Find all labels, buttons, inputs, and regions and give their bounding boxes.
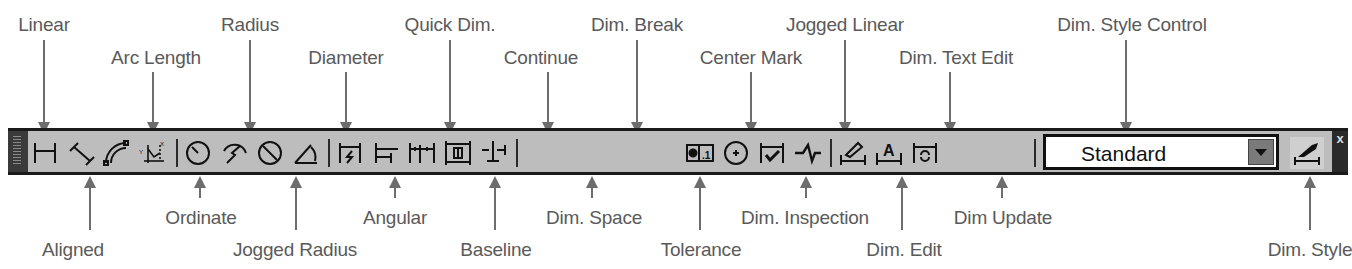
callout-label: Dim Update [954, 207, 1052, 229]
jogged-linear-button[interactable] [791, 137, 825, 169]
callout-arrow [591, 178, 593, 198]
dim-edit-button[interactable] [836, 137, 870, 169]
ordinate-button[interactable]: YX [136, 137, 170, 169]
callout-arrow [199, 178, 201, 198]
callout-arrow [949, 72, 951, 132]
dim-text-edit-icon: A [874, 139, 904, 167]
toolbar-separator [1034, 139, 1036, 167]
callout-label: Baseline [460, 239, 531, 261]
callout-label: Ordinate [165, 207, 236, 229]
callout-arrow [89, 178, 91, 230]
callout-arrow [1125, 40, 1127, 132]
callout-arrow [901, 178, 903, 230]
radius-button[interactable] [181, 137, 215, 169]
diameter-icon [255, 139, 285, 167]
toolbar-end-cap: x [1332, 131, 1348, 172]
jogged-radius-icon [219, 139, 249, 167]
toolbar-separator [328, 139, 330, 167]
dim-update-button[interactable] [908, 137, 942, 169]
callout-label: Quick Dim. [405, 14, 496, 36]
dim-update-icon [910, 139, 940, 167]
toolbar-grip-handle[interactable] [8, 131, 28, 172]
callout-arrow [449, 40, 451, 132]
dim-inspection-button[interactable] [755, 137, 789, 169]
callout-label: Dim. Space [546, 207, 642, 229]
callout-label: Radius [221, 14, 279, 36]
callout-arrow [345, 72, 347, 132]
radius-icon [183, 139, 213, 167]
svg-text:A: A [883, 142, 895, 159]
diameter-button[interactable] [253, 137, 287, 169]
aligned-dimension-icon [66, 139, 96, 167]
baseline-icon [371, 139, 401, 167]
callout-arrow [249, 40, 251, 132]
center-mark-button[interactable] [719, 137, 753, 169]
callout-label: Dim. Text Edit [899, 47, 1013, 69]
callout-label: Dim. Style Control [1057, 14, 1207, 36]
dim-style-control-value: Standard [1081, 142, 1166, 166]
callout-arrow [295, 178, 297, 230]
callout-label: Diameter [308, 47, 383, 69]
dim-break-button[interactable] [477, 137, 511, 169]
callout-arrow [805, 178, 807, 198]
quick-dimension-icon [335, 139, 365, 167]
callout-label: Aligned [42, 239, 104, 261]
jogged-linear-icon [793, 139, 823, 167]
arc-length-button[interactable] [100, 137, 134, 169]
linear-button[interactable] [28, 137, 62, 169]
arc-length-icon [102, 139, 132, 167]
dim-edit-icon [838, 139, 868, 167]
callout-label: Linear [18, 14, 70, 36]
dim-space-icon [443, 139, 473, 167]
jogged-radius-button[interactable] [217, 137, 251, 169]
quick-dim-button[interactable] [333, 137, 367, 169]
ordinate-icon: YX [138, 139, 168, 167]
dim-inspection-icon [757, 139, 787, 167]
continue-icon [407, 139, 437, 167]
dim-style-control-dropdown[interactable]: Standard [1043, 134, 1279, 170]
callout-arrow [750, 72, 752, 132]
callout-arrow [699, 178, 701, 230]
tolerance-icon: .1 [685, 139, 715, 167]
dimension-toolbar: YX .1 A [8, 128, 1348, 175]
callout-label: Jogged Linear [786, 14, 904, 36]
toolbar-separator [176, 139, 178, 167]
callout-arrow [636, 40, 638, 132]
callout-label: Arc Length [111, 47, 201, 69]
callout-label: Angular [363, 207, 427, 229]
tolerance-button[interactable]: .1 [683, 137, 717, 169]
center-mark-icon [721, 139, 751, 167]
baseline-button[interactable] [369, 137, 403, 169]
callout-label: Dim. Inspection [741, 207, 869, 229]
callout-arrow [1001, 178, 1003, 198]
dim-text-edit-button[interactable]: A [872, 137, 906, 169]
callout-arrow [494, 178, 496, 230]
dim-style-icon [1292, 139, 1322, 167]
close-icon[interactable]: x [1334, 133, 1346, 145]
callout-label: Dim. Style [1268, 239, 1352, 261]
callout-label: Dim. Break [591, 14, 683, 36]
aligned-button[interactable] [64, 137, 98, 169]
callout-arrow [1309, 178, 1311, 230]
callout-arrow [43, 40, 45, 132]
toolbar-separator [830, 139, 832, 167]
callout-label: Dim. Edit [866, 239, 941, 261]
angular-icon [291, 139, 321, 167]
callout-arrow [394, 178, 396, 198]
continue-button[interactable] [405, 137, 439, 169]
dim-style-button[interactable] [1290, 137, 1324, 169]
linear-dimension-icon [30, 139, 60, 167]
dim-space-button[interactable] [441, 137, 475, 169]
callout-label: Continue [504, 47, 578, 69]
callout-arrow [152, 72, 154, 132]
svg-text:Y: Y [139, 149, 143, 155]
callout-label: Jogged Radius [233, 239, 357, 261]
angular-button[interactable] [289, 137, 323, 169]
callout-label: Tolerance [661, 239, 742, 261]
dim-break-icon [479, 139, 509, 167]
svg-text:X: X [160, 141, 164, 147]
callout-arrow [547, 72, 549, 132]
svg-text:.1: .1 [702, 150, 711, 161]
chevron-down-icon[interactable] [1248, 139, 1274, 165]
toolbar-separator [516, 139, 518, 167]
